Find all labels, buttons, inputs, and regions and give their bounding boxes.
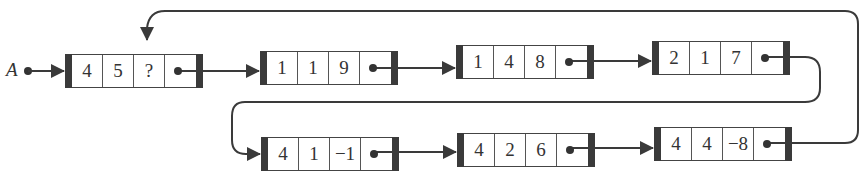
- pointer-dot-icon: [566, 146, 574, 154]
- pointer-dot-icon: [369, 64, 377, 72]
- node-field: 1: [299, 138, 330, 170]
- node-field: 1: [463, 46, 494, 78]
- node-field: 4: [464, 134, 495, 166]
- node-field: 2: [659, 42, 690, 74]
- next-pointer-field: [361, 138, 392, 170]
- node-field: 8: [525, 46, 556, 78]
- node-field: 4: [661, 128, 692, 160]
- node-right-bar: [588, 133, 595, 167]
- node-field: 2: [495, 134, 526, 166]
- node-field: 1: [298, 52, 329, 84]
- list-node: 4 4 −8: [654, 127, 792, 161]
- node-field: 4: [268, 138, 299, 170]
- pointer-dot-icon: [763, 140, 771, 148]
- node-left-bar: [65, 54, 72, 88]
- next-pointer-field: [165, 55, 196, 87]
- pointer-dot-icon: [761, 54, 769, 62]
- node-left-bar: [456, 45, 463, 79]
- next-pointer-field: [556, 46, 587, 78]
- pointer-dot-icon: [174, 67, 182, 75]
- node-field: −8: [723, 128, 754, 160]
- list-node: 4 5 ?: [65, 54, 203, 88]
- next-pointer-field: [557, 134, 588, 166]
- head-pointer-label: A: [6, 59, 18, 81]
- list-node: 1 4 8: [456, 45, 594, 79]
- node-right-bar: [785, 127, 792, 161]
- node-field: 1: [267, 52, 298, 84]
- node-field: 4: [72, 55, 103, 87]
- pointer-dot-icon: [565, 58, 573, 66]
- linked-list-diagram: A 4 5 ? 1 1 9 1 4 8: [0, 0, 867, 183]
- node-right-bar: [783, 41, 790, 75]
- pointer-dot-icon: [370, 150, 378, 158]
- node-field: 1: [690, 42, 721, 74]
- node-right-bar: [392, 137, 399, 171]
- list-node: 4 1 −1: [261, 137, 399, 171]
- node-left-bar: [652, 41, 659, 75]
- node-field: 6: [526, 134, 557, 166]
- arrow-a-to-node-1: [24, 67, 64, 75]
- node-field: 4: [494, 46, 525, 78]
- node-field: 5: [103, 55, 134, 87]
- node-right-bar: [196, 54, 203, 88]
- node-left-bar: [260, 51, 267, 85]
- node-left-bar: [654, 127, 661, 161]
- next-pointer-field: [754, 128, 785, 160]
- node-field: 9: [329, 52, 360, 84]
- next-pointer-field: [752, 42, 783, 74]
- list-node: 2 1 7: [652, 41, 790, 75]
- list-node: 1 1 9: [260, 51, 398, 85]
- list-node: 4 2 6: [457, 133, 595, 167]
- node-left-bar: [261, 137, 268, 171]
- node-field: 4: [692, 128, 723, 160]
- node-left-bar: [457, 133, 464, 167]
- node-right-bar: [587, 45, 594, 79]
- node-field: ?: [134, 55, 165, 87]
- node-field: 7: [721, 42, 752, 74]
- node-right-bar: [391, 51, 398, 85]
- next-pointer-field: [360, 52, 391, 84]
- node-field: −1: [330, 138, 361, 170]
